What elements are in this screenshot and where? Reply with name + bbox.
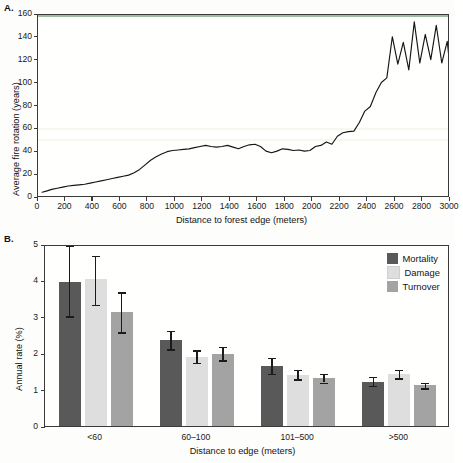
panel-a: A. 020406080100120140160 020040060080010… xyxy=(0,0,455,232)
error-bar-line xyxy=(121,292,122,332)
panel-a-xtick-mark xyxy=(339,197,340,201)
bar[interactable] xyxy=(388,374,410,427)
panel-a-xtick-label: 3000 xyxy=(429,201,463,211)
panel-b-ytick-mark xyxy=(41,390,45,391)
panel-a-ytick-mark xyxy=(34,36,38,37)
panel-a-xtick-mark xyxy=(394,197,395,201)
error-bar-cap xyxy=(268,374,276,375)
panel-a-ytick-mark xyxy=(34,82,38,83)
legend-swatch-mortality xyxy=(387,253,398,264)
legend-item-damage: Damage xyxy=(387,266,440,279)
panel-b-label: B. xyxy=(4,233,14,244)
bar[interactable] xyxy=(313,378,335,427)
error-bar-cap xyxy=(118,332,126,333)
error-bar-cap xyxy=(66,316,74,317)
panel-a-xtick-mark xyxy=(366,197,367,201)
legend-swatch-turnover xyxy=(387,281,398,292)
error-bar-cap xyxy=(268,358,276,359)
panel-a-x-axis-title: Distance to forest edge (meters) xyxy=(0,215,455,225)
panel-a-ytick-mark xyxy=(34,105,38,106)
panel-b-ytick-label: 5 xyxy=(16,239,38,249)
panel-a-xtick-mark xyxy=(421,197,422,201)
bar[interactable] xyxy=(414,385,436,427)
error-bar-cap xyxy=(193,363,201,364)
legend: Mortality Damage Turnover xyxy=(387,252,440,294)
error-bar-line xyxy=(196,350,197,362)
panel-a-xtick-mark xyxy=(146,197,147,201)
panel-a-plot-area xyxy=(37,14,449,197)
panel-a-xtick-mark xyxy=(256,197,257,201)
fire-rotation-line xyxy=(42,22,449,192)
panel-a-xtick-mark xyxy=(284,197,285,201)
panel-b-xtick-label: >500 xyxy=(358,432,438,442)
error-bar-cap xyxy=(219,347,227,348)
bar[interactable] xyxy=(186,357,208,427)
legend-label-mortality: Mortality xyxy=(403,253,438,264)
panel-a-xtick-mark xyxy=(201,197,202,201)
panel-b-ytick-label: 4 xyxy=(16,275,38,285)
panel-a-xtick-mark xyxy=(91,197,92,201)
error-bar-cap xyxy=(66,246,74,247)
bar[interactable] xyxy=(160,340,182,427)
error-bar-cap xyxy=(167,331,175,332)
error-bar-line xyxy=(373,377,374,386)
error-bar-cap xyxy=(92,305,100,306)
error-bar-cap xyxy=(294,370,302,371)
panel-a-y-axis-title: Average fire rotation (years) xyxy=(11,82,21,196)
error-bar-line xyxy=(170,331,171,350)
panel-b-xtick-label: 60–100 xyxy=(156,432,236,442)
error-bar-cap xyxy=(167,349,175,350)
panel-b-ytick-label: 0 xyxy=(16,421,38,431)
panel-a-xtick-mark xyxy=(311,197,312,201)
bar[interactable] xyxy=(261,366,283,427)
error-bar-cap xyxy=(92,256,100,257)
panel-a-xtick-mark xyxy=(64,197,65,201)
panel-a-ytick-mark xyxy=(34,151,38,152)
bar[interactable] xyxy=(212,354,234,427)
panel-b-ytick-mark xyxy=(41,427,45,428)
error-bar-line xyxy=(323,374,324,383)
error-bar-line xyxy=(95,256,96,305)
error-bar-cap xyxy=(395,378,403,379)
error-bar-cap xyxy=(294,379,302,380)
panel-a-ytick-mark xyxy=(34,174,38,175)
panel-a-ytick-label: 140 xyxy=(8,31,32,41)
error-bar-line xyxy=(69,246,70,316)
panel-b-ytick-label: 3 xyxy=(16,312,38,322)
panel-a-ytick-label: 160 xyxy=(8,8,32,18)
panel-b-xtick-label: <60 xyxy=(55,432,135,442)
panel-a-xtick-mark xyxy=(449,197,450,201)
panel-b-ytick-mark xyxy=(41,317,45,318)
error-bar-cap xyxy=(421,388,429,389)
panel-a-xtick-mark xyxy=(229,197,230,201)
panel-a-xtick-mark xyxy=(119,197,120,201)
panel-a-xtick-mark xyxy=(37,197,38,201)
panel-a-ytick-mark xyxy=(34,128,38,129)
bar[interactable] xyxy=(362,382,384,427)
panel-b-y-axis-title: Annual rate (%) xyxy=(14,327,24,391)
panel-b-xtick-label: 101–500 xyxy=(257,432,337,442)
panel-b-x-axis-title: Distance to edge (meters) xyxy=(0,446,455,456)
legend-item-mortality: Mortality xyxy=(387,252,440,265)
error-bar-line xyxy=(271,358,272,374)
panel-a-ytick-mark xyxy=(34,59,38,60)
error-bar-cap xyxy=(219,360,227,361)
legend-item-turnover: Turnover xyxy=(387,280,440,293)
bar[interactable] xyxy=(287,375,309,427)
error-bar-line xyxy=(297,370,298,379)
error-bar-cap xyxy=(118,292,126,293)
panel-b-ytick-mark xyxy=(41,245,45,246)
panel-a-xtick-mark xyxy=(174,197,175,201)
error-bar-cap xyxy=(369,386,377,387)
error-bar-cap xyxy=(193,350,201,351)
panel-b-ytick-mark xyxy=(41,354,45,355)
error-bar-cap xyxy=(395,370,403,371)
panel-a-ytick-label: 120 xyxy=(8,54,32,64)
legend-label-turnover: Turnover xyxy=(403,281,440,292)
panel-a-ytick-mark xyxy=(34,14,38,15)
error-bar-line xyxy=(222,347,223,360)
legend-swatch-damage xyxy=(387,266,400,279)
legend-label-damage: Damage xyxy=(405,267,440,278)
error-bar-cap xyxy=(369,377,377,378)
